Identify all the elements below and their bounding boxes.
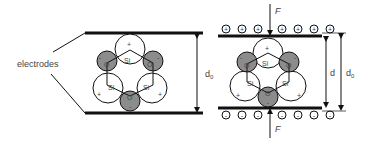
svg-text:Si: Si [143,84,150,91]
svg-text:-: - [313,111,316,120]
svg-text:+: + [256,26,260,33]
svg-text:Si: Si [262,60,269,67]
silicon-atom-right [137,73,167,103]
left-panel: electrodes d0 + Si Si Si + + O O O [17,33,214,113]
svg-text:O: O [104,61,110,68]
svg-text:+: + [158,91,162,98]
bottom-charges [222,111,334,119]
d0-label-right: d0 [346,68,355,79]
svg-text:+: + [97,91,101,98]
right-panel: + + + + + + + - - - - - - - F F [218,4,355,138]
svg-text:-: - [329,111,332,120]
svg-text:O: O [244,62,250,69]
svg-text:-: - [281,111,284,120]
svg-text:-: - [257,111,260,120]
svg-text:+: + [328,26,332,33]
top-charges [222,25,334,33]
electrode-pointer-bottom [51,74,85,113]
svg-text:Si: Si [282,80,289,87]
force-label-bottom: F [275,124,281,134]
force-label-top: F [275,6,281,16]
svg-text:+: + [236,92,240,99]
electrodes-label: electrodes [17,59,59,69]
svg-text:O: O [286,62,292,69]
svg-text:O: O [265,90,271,97]
d0-label: d0 [205,69,214,80]
svg-text:+: + [297,92,301,99]
svg-text:Si: Si [108,84,115,91]
piezoelectric-diagram: electrodes d0 + Si Si Si + + O O O [0,0,369,145]
svg-text:O: O [147,61,153,68]
svg-text:+: + [127,41,131,48]
electrode-pointer-top [53,33,85,52]
svg-text:+: + [280,26,284,33]
svg-text:Si: Si [247,80,254,87]
svg-text:O: O [127,94,133,101]
svg-text:+: + [312,26,316,33]
svg-text:+: + [224,26,228,33]
svg-text:-: - [225,111,228,120]
svg-text:+: + [296,26,300,33]
d-label: d [330,68,335,78]
svg-text:-: - [297,111,300,120]
svg-text:Si: Si [124,57,131,64]
svg-text:+: + [240,26,244,33]
svg-text:-: - [241,111,244,120]
svg-text:+: + [265,45,269,52]
